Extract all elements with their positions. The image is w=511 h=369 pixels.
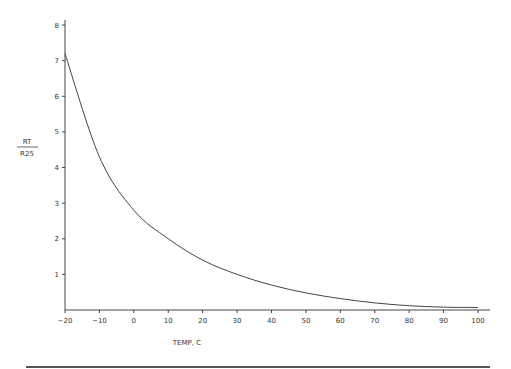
x-tick-label: 100 bbox=[471, 317, 484, 325]
x-tick-label: 80 bbox=[405, 317, 414, 325]
chart-svg: 12345678 −20−100102030405060708090100 RT… bbox=[0, 0, 511, 369]
y-tick-label: 7 bbox=[55, 57, 59, 65]
x-tick-label: 0 bbox=[132, 317, 136, 325]
x-tick-label: 60 bbox=[336, 317, 345, 325]
y-label-denominator: R25 bbox=[20, 150, 34, 158]
y-tick-label: 5 bbox=[55, 128, 59, 136]
x-tick-label: 90 bbox=[439, 317, 448, 325]
y-axis-label: RT R25 bbox=[17, 138, 38, 158]
y-tick-label: 3 bbox=[55, 200, 59, 208]
y-tick-label: 6 bbox=[55, 93, 60, 101]
y-label-numerator: RT bbox=[23, 138, 32, 146]
y-tick-label: 8 bbox=[55, 22, 59, 30]
y-tick-label: 4 bbox=[55, 164, 60, 172]
y-tick-label: 2 bbox=[55, 235, 59, 243]
y-axis: 12345678 bbox=[55, 20, 65, 310]
x-tick-label: 30 bbox=[233, 317, 242, 325]
x-axis-label: TEMP, C bbox=[172, 339, 201, 347]
x-tick-label: −20 bbox=[58, 317, 73, 325]
rt-r25-curve bbox=[65, 54, 478, 308]
y-tick-label: 1 bbox=[55, 271, 59, 279]
x-tick-label: 40 bbox=[267, 317, 276, 325]
x-tick-label: 70 bbox=[370, 317, 379, 325]
x-tick-label: −10 bbox=[92, 317, 107, 325]
x-tick-label: 50 bbox=[301, 317, 310, 325]
x-axis: −20−100102030405060708090100 bbox=[58, 310, 490, 325]
x-tick-label: 20 bbox=[198, 317, 207, 325]
x-tick-label: 10 bbox=[164, 317, 173, 325]
